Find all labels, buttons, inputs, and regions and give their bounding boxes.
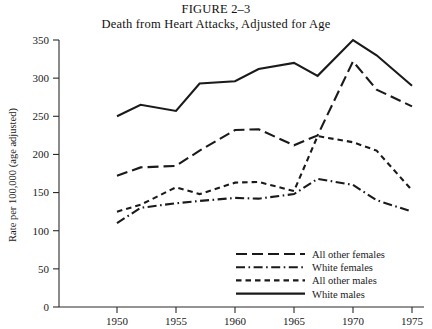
y-tick-label: 200	[33, 148, 50, 160]
series-line-all-other-males	[117, 136, 412, 212]
line-chart: 050100150200250300350 195019551960196519…	[0, 0, 432, 329]
series-line-white-females	[117, 179, 412, 223]
x-axis-ticks: 195019551960196519701975	[106, 307, 424, 327]
x-tick-label: 1960	[224, 315, 247, 327]
chart-legend: All other femalesWhite femalesAll other …	[236, 249, 385, 300]
y-tick-label: 250	[33, 110, 50, 122]
data-series-group	[117, 40, 412, 223]
legend-label: All other females	[312, 249, 385, 260]
x-tick-label: 1975	[401, 315, 424, 327]
x-tick-label: 1970	[342, 315, 365, 327]
y-tick-label: 350	[33, 34, 50, 46]
x-tick-label: 1955	[165, 315, 188, 327]
y-axis-ticks: 050100150200250300350	[33, 34, 60, 313]
y-tick-label: 100	[33, 225, 50, 237]
y-tick-label: 150	[33, 186, 50, 198]
chart-svg: 050100150200250300350 195019551960196519…	[0, 0, 432, 329]
x-tick-label: 1950	[106, 315, 129, 327]
y-tick-label: 50	[38, 263, 50, 275]
y-axis-label: Rate per 100,000 (age adjusted)	[7, 108, 19, 242]
legend-label: White males	[312, 289, 365, 300]
series-line-all-other-females	[117, 61, 412, 175]
figure-container: FIGURE 2–3 Death from Heart Attacks, Adj…	[0, 0, 432, 329]
x-tick-label: 1965	[283, 315, 306, 327]
legend-label: White females	[312, 262, 373, 273]
legend-label: All other males	[312, 275, 377, 286]
y-tick-label: 300	[33, 72, 50, 84]
y-tick-label: 0	[44, 301, 50, 313]
